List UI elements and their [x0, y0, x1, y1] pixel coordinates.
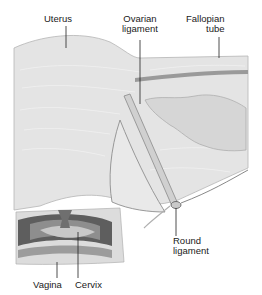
label-ovarian-ligament: Ovarian ligament — [122, 14, 158, 34]
label-fallopian-tube-line2: tube — [186, 24, 225, 34]
label-round-ligament-line2: ligament — [173, 246, 209, 256]
label-ovarian-ligament-line2: ligament — [122, 24, 158, 34]
label-fallopian-tube: Fallopian tube — [186, 14, 225, 34]
anatomy-diagram: Uterus Ovarian ligament Fallopian tube R… — [0, 0, 262, 295]
label-uterus: Uterus — [44, 14, 72, 24]
label-round-ligament: Round ligament — [173, 236, 209, 256]
leader-lines — [0, 0, 262, 295]
label-cervix: Cervix — [75, 280, 102, 290]
label-vagina: Vagina — [33, 280, 62, 290]
